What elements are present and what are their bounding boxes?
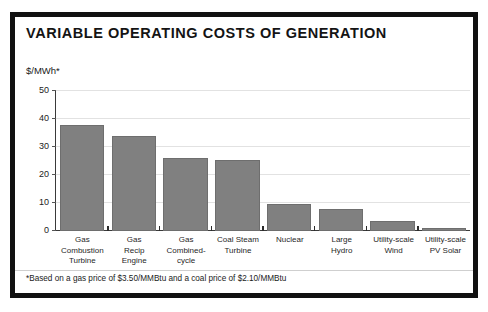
y-tick-mark: [52, 174, 56, 175]
chart-figure-body: VARIABLE OPERATING COSTS OF GENERATION $…: [15, 17, 473, 293]
bar-slot: [212, 91, 264, 231]
x-tick-mark: [262, 226, 264, 231]
y-tick-label: 20: [39, 169, 49, 179]
x-axis-label: GasRecipEngine: [108, 235, 160, 267]
bar-slot: [367, 91, 419, 231]
bars-group: [56, 91, 470, 231]
plot-area: 01020304050: [55, 91, 470, 231]
bar-gas-combustion-turbine[interactable]: [60, 125, 104, 231]
x-axis-labels-group: GasCombustionTurbineGasRecipEngineGasCom…: [56, 235, 471, 267]
x-axis-label: Coal SteamTurbine: [212, 235, 264, 267]
page-title: VARIABLE OPERATING COSTS OF GENERATION: [26, 25, 387, 41]
x-tick-mark: [366, 226, 368, 231]
bar-slot: [263, 91, 315, 231]
x-tick-mark: [314, 226, 316, 231]
y-tick-label: 50: [39, 85, 49, 95]
y-tick-label: 40: [39, 113, 49, 123]
bar-coal-steam-turbine[interactable]: [215, 160, 259, 231]
chart-figure-frame: VARIABLE OPERATING COSTS OF GENERATION $…: [10, 12, 478, 298]
x-axis-label: Utility-scalePV Solar: [420, 235, 472, 267]
bar-slot: [108, 91, 160, 231]
x-axis-label: Utility-scaleWind: [368, 235, 420, 267]
footnote-text: *Based on a gas price of $3.50/MMBtu and…: [26, 274, 286, 283]
x-axis-label: GasCombustionTurbine: [56, 235, 108, 267]
bar-gas-combined-cycle[interactable]: [163, 158, 207, 231]
bar-slot: [418, 91, 470, 231]
bar-slot: [160, 91, 212, 231]
y-tick-mark: [52, 230, 56, 231]
bar-slot: [56, 91, 108, 231]
y-tick-label: 10: [39, 197, 49, 207]
y-tick-mark: [52, 90, 56, 91]
bar-slot: [315, 91, 367, 231]
x-axis-label: Nuclear: [264, 235, 316, 267]
x-tick-mark: [211, 226, 213, 231]
x-axis-label: LargeHydro: [316, 235, 368, 267]
y-tick-mark: [52, 118, 56, 119]
footnote-divider: [15, 270, 473, 271]
bar-gas-recip-engine[interactable]: [112, 136, 156, 231]
x-axis-label: GasCombined-cycle: [160, 235, 212, 267]
bar-large-hydro[interactable]: [319, 209, 363, 231]
y-tick-label: 30: [39, 141, 49, 151]
y-axis-unit-label: $/MWh*: [26, 65, 60, 76]
x-tick-mark: [417, 226, 419, 231]
bar-utility-scale-wind[interactable]: [370, 221, 414, 231]
x-tick-mark: [159, 226, 161, 231]
bar-utility-scale-pv-solar[interactable]: [422, 228, 466, 231]
y-tick-mark: [52, 202, 56, 203]
bar-nuclear[interactable]: [267, 204, 311, 231]
y-tick-label: 0: [44, 225, 49, 235]
y-tick-mark: [52, 146, 56, 147]
x-tick-mark: [107, 226, 109, 231]
